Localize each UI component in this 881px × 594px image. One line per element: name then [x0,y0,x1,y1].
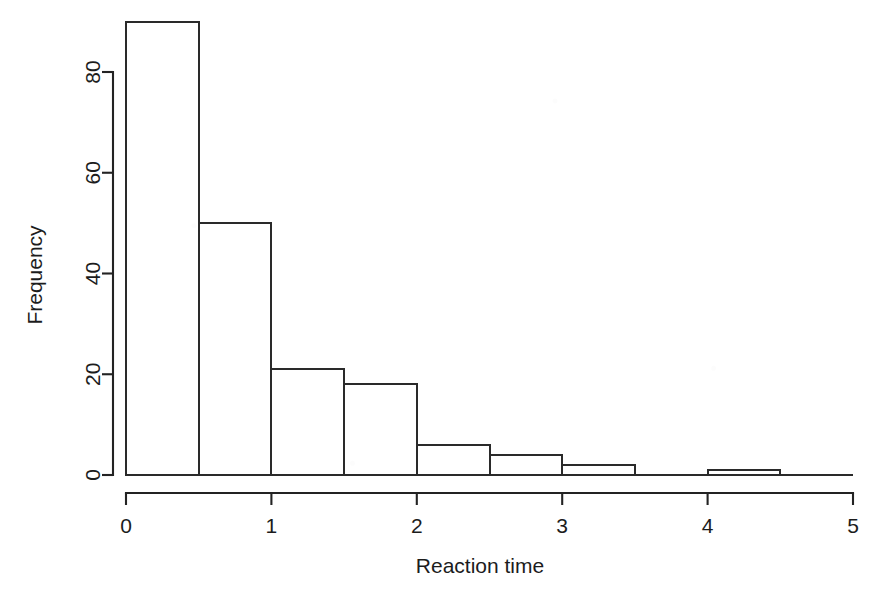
histogram-bar [199,223,272,475]
histogram-figure: 020406080 012345 Reaction time Frequency [0,0,881,594]
y-axis-title: Frequency [23,225,46,325]
y-axis-tick-label: 40 [81,262,104,285]
x-axis-tick-label: 0 [120,514,132,537]
bars-group [126,22,853,475]
histogram-bar [562,465,635,475]
y-axis-tick-label: 0 [81,469,104,481]
x-axis-tick-label: 4 [702,514,714,537]
x-axis-tick-label: 2 [411,514,423,537]
histogram-bar [271,369,344,475]
histogram-bar [490,455,563,475]
plot-canvas: 020406080 012345 Reaction time Frequency [0,0,881,594]
histogram-bar [126,22,199,475]
y-axis [102,72,113,475]
y-axis-tick-label: 80 [81,60,104,83]
x-axis-tick-label: 5 [847,514,859,537]
y-axis-tick-label: 20 [81,363,104,386]
x-axis [126,493,853,505]
x-axis-tick-labels: 012345 [120,514,859,537]
histogram-bar [344,384,417,475]
x-axis-tick-label: 1 [266,514,278,537]
y-axis-tick-labels: 020406080 [81,60,104,481]
histogram-bar [417,445,490,475]
x-axis-ticks [126,493,853,505]
y-axis-tick-label: 60 [81,161,104,184]
x-axis-tick-label: 3 [556,514,568,537]
y-axis-ticks [102,72,113,475]
x-axis-title: Reaction time [416,554,544,577]
